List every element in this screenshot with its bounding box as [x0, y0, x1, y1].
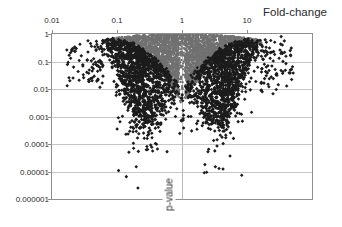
- y-tick-label: 0.000001: [3, 195, 49, 204]
- scatter-canvas: [52, 34, 312, 199]
- x-tick-label: 0.1: [97, 16, 137, 25]
- p-value-axis-title: p-value: [163, 175, 176, 215]
- y-tick-label: 1: [3, 30, 49, 39]
- y-tick-label: 0.1: [3, 58, 49, 67]
- y-tick-label: 0.001: [3, 113, 49, 122]
- y-tick-label: 0.00001: [3, 168, 49, 177]
- x-tick-label: 0.01: [32, 16, 72, 25]
- y-tick-label: 0.01: [3, 85, 49, 94]
- x-tick-label: 1: [162, 16, 202, 25]
- volcano-plot-figure: Fold-change 0.010.111010.10.010.0010.000…: [0, 0, 342, 227]
- y-tick-label: 0.0001: [3, 140, 49, 149]
- plot-area: [51, 33, 313, 200]
- x-tick-label: 10: [227, 16, 267, 25]
- fold-change-axis-title: Fold-change: [263, 6, 327, 18]
